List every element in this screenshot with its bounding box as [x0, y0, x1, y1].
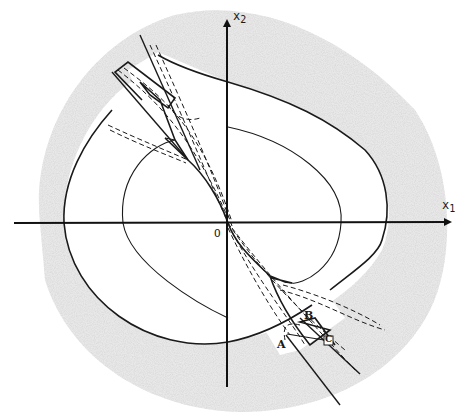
origin-label: O: [214, 228, 221, 239]
phase-plane-diagram: [0, 0, 465, 416]
x2-axis-label: x2: [233, 10, 246, 25]
point-b-label: B: [304, 310, 313, 321]
shaded-band: [39, 10, 447, 412]
point-c-label: C: [325, 335, 332, 344]
x1-axis: [14, 222, 448, 223]
x1-label-sub: 1: [449, 203, 455, 214]
point-a-label: A: [277, 339, 286, 350]
x1-axis-arrow-icon: [444, 218, 452, 226]
x1-axis-label: x1: [442, 199, 455, 214]
x2-label-sub: 2: [240, 14, 246, 25]
